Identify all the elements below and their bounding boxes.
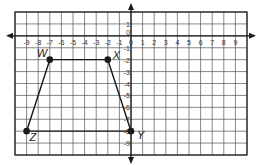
y-tick-label: 0 [126,29,130,36]
y-tick-label: -3 [124,69,130,76]
x-tick-label: 9 [233,39,237,46]
x-tick-label: 1 [141,39,145,46]
y-axis-up-arrow-icon [128,3,134,10]
x-tick-label: -8 [35,39,41,46]
x-tick-label: -3 [93,39,99,46]
vertex-point-x [105,56,112,63]
x-tick-label: 7 [210,39,214,46]
y-tick-label: -5 [124,92,130,99]
y-tick-label: -1 [124,45,130,52]
x-tick-label: -5 [70,39,76,46]
x-tick-label: -9 [23,39,29,46]
x-tick-label: 2 [152,39,156,46]
vertex-label-z: Z [29,131,38,143]
x-tick-label: -6 [58,39,64,46]
x-tick-label: 3 [164,39,168,46]
x-tick-label: 6 [199,39,203,46]
vertex-label-y: Y [137,129,145,141]
y-tick-label: -4 [124,81,130,88]
x-axis-right-arrow-icon [249,33,256,39]
vertex-label-w: W [37,47,49,59]
vertex-point-w [47,56,54,63]
x-tick-label: -1 [116,39,122,46]
y-tick-label: -2 [124,57,130,64]
x-axis-left-arrow-icon [6,33,13,39]
x-tick-label: -7 [47,39,53,46]
vertex-point-y [128,128,135,135]
x-tick-label: -4 [81,39,87,46]
x-tick-label: -2 [105,39,111,46]
x-tick-label: 4 [175,39,179,46]
vertex-label-x: X [112,49,121,61]
y-tick-label: -9 [124,140,130,147]
y-tick-label: 1 [126,21,130,28]
coordinate-plane: -9-8-7-6-5-4-3-2-101234567891-1-2-3-4-5-… [0,0,264,165]
x-tick-label: 5 [187,39,191,46]
x-tick-label: 8 [222,39,226,46]
y-axis-down-arrow-icon [128,157,134,164]
